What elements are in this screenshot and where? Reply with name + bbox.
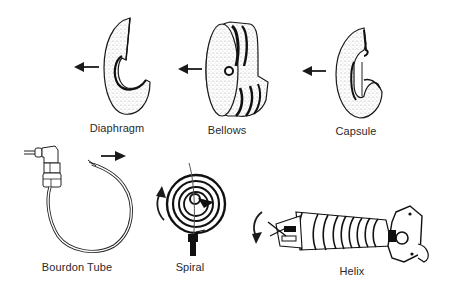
diaphragm-figure — [104, 18, 150, 114]
spiral-label: Spiral — [176, 261, 205, 273]
bellows-label: Bellows — [208, 124, 247, 136]
spiral-figure — [167, 163, 225, 256]
arrow-left-icon — [302, 66, 326, 76]
helix-label: Helix — [340, 265, 365, 277]
pressure-elements-diagram: Diaphragm Bellows Capsule Bourdon Tube S… — [0, 0, 458, 292]
arrow-left-icon — [74, 62, 99, 72]
helix-figure — [268, 206, 428, 262]
diagram-artwork — [0, 0, 458, 292]
diaphragm-label: Diaphragm — [90, 122, 145, 134]
bourdon-tube-figure — [24, 146, 131, 251]
bourdon-tube-label: Bourdon Tube — [42, 261, 112, 273]
capsule-figure — [336, 28, 382, 118]
arrow-left-icon — [178, 64, 202, 74]
bellows-figure — [206, 22, 268, 116]
arrow-right-icon — [101, 151, 126, 161]
rotate-counterclockwise-icon — [156, 186, 166, 220]
rotate-counterclockwise-icon — [252, 212, 262, 244]
capsule-label: Capsule — [335, 125, 376, 137]
